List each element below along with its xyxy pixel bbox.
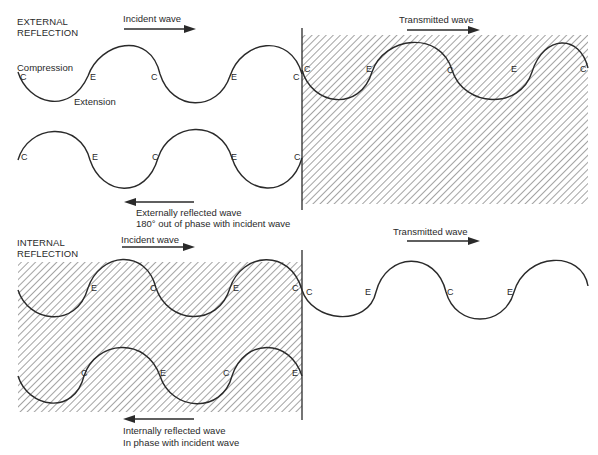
internal-transmitted-label: Transmitted wave <box>393 226 468 237</box>
internal-incident-label: Incident wave <box>121 234 179 245</box>
point-label: C <box>21 152 28 163</box>
point-label: C <box>306 287 313 298</box>
point-label: E <box>292 368 298 379</box>
internal-title-line1: INTERNAL <box>17 237 78 248</box>
internal-reflected-label-line1: Internally reflected wave <box>123 425 225 436</box>
arrow-internal-transmitted <box>407 237 480 245</box>
external-incident-wave <box>18 46 302 103</box>
external-incident-label: Incident wave <box>123 13 181 24</box>
external-reflected-wave <box>18 129 302 188</box>
arrow-external-reflected <box>124 198 194 206</box>
point-label: E <box>92 152 98 163</box>
point-label: E <box>366 64 372 75</box>
point-label: C <box>223 368 230 379</box>
point-label: C <box>447 65 454 76</box>
point-label: C <box>150 283 157 294</box>
point-label: E <box>231 72 237 83</box>
internal-title-line2: REFLECTION <box>17 248 78 259</box>
external-section-title: EXTERNAL REFLECTION <box>17 16 78 38</box>
point-label: E <box>91 283 97 294</box>
point-label: E <box>160 368 166 379</box>
arrow-external-incident <box>124 25 196 33</box>
external-reflected-label-line2: 180° out of phase with incident wave <box>136 218 290 229</box>
external-reflected-label-line1: Externally reflected wave <box>136 207 242 218</box>
arrow-internal-reflected <box>123 415 194 423</box>
point-label: E <box>90 72 96 83</box>
point-label: E <box>233 283 239 294</box>
point-label: C <box>304 64 311 75</box>
point-label: C <box>580 64 587 75</box>
point-label: E <box>511 64 517 75</box>
internal-section-title: INTERNAL REFLECTION <box>17 237 82 259</box>
point-label: C <box>152 152 159 163</box>
external-transmitted-label: Transmitted wave <box>399 14 474 25</box>
external-title-line2: REFLECTION <box>17 27 78 38</box>
point-label: C <box>447 287 454 298</box>
point-label: E <box>231 152 237 163</box>
point-label: C <box>20 72 27 83</box>
extension-label: Extension <box>74 96 116 107</box>
dense-medium-region-internal <box>18 262 302 412</box>
external-title-line1: EXTERNAL <box>17 16 78 27</box>
point-label: C <box>292 283 299 294</box>
internal-transmitted-wave <box>302 260 588 319</box>
point-label: C <box>293 72 300 83</box>
point-label: C <box>151 72 158 83</box>
point-label: C <box>294 152 301 163</box>
point-label: E <box>507 287 513 298</box>
dense-medium-region-external <box>302 35 588 204</box>
arrow-external-transmitted <box>407 26 480 34</box>
point-label: E <box>365 287 371 298</box>
point-label: C <box>81 368 88 379</box>
wave-diagram <box>0 0 598 455</box>
internal-reflected-label-line2: In phase with incident wave <box>123 437 239 448</box>
